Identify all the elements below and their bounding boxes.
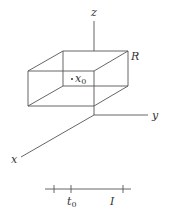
region-label: R [130, 50, 139, 63]
x-axis-label: x [11, 153, 18, 166]
point-x0-label: x0 [75, 72, 86, 86]
y-axis-label: y [151, 109, 159, 122]
t0-label: t0 [67, 195, 77, 209]
point-x0-dot [71, 78, 73, 80]
coordinate-box-diagram: x0 z y x R t0 I [0, 0, 169, 223]
x-axis [21, 115, 94, 157]
z-axis-label: z [90, 6, 97, 19]
interval-label: I [109, 195, 115, 208]
time-interval-line [45, 185, 131, 193]
